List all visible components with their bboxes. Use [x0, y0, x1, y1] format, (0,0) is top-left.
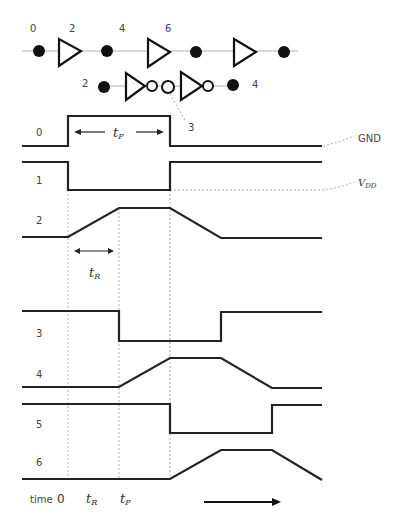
node-dot-0 [33, 45, 45, 57]
tr-annotation: tR [74, 248, 114, 281]
signal-label-6: 6 [36, 457, 42, 468]
tp-label: tP [113, 125, 124, 141]
waveform-0 [22, 116, 322, 146]
time-tp-label: tP [120, 491, 131, 507]
node-dot-4-bottom [227, 79, 239, 91]
top-node-label-6: 6 [165, 23, 171, 34]
signal-label-2: 2 [36, 215, 42, 226]
rail-callouts: GND VDD [322, 133, 381, 190]
waveform-2 [22, 208, 322, 238]
time-tr-label: tR [86, 491, 97, 507]
signal-label-5: 5 [36, 419, 42, 430]
waveform-5 [22, 404, 322, 433]
waveform-1 [22, 162, 322, 190]
top-node-label-4: 4 [119, 23, 125, 34]
gnd-label: GND [358, 133, 381, 144]
vdd-label: VDD [358, 177, 377, 190]
callout-label-3: 3 [188, 122, 194, 133]
arrowhead-right-icon [108, 248, 114, 254]
top-buffer-chain: 0 2 4 6 [22, 23, 298, 67]
arrowhead-left-icon [74, 129, 81, 135]
tr-label: tR [89, 265, 100, 281]
node-dot-2 [98, 81, 110, 93]
time-guides [68, 190, 322, 480]
waveform-6 [22, 450, 322, 480]
bottom-node-label-2: 2 [82, 78, 88, 89]
waveform-4 [22, 358, 322, 388]
buffer-gate-icon [234, 39, 256, 66]
top-node-label-2: 2 [69, 23, 75, 34]
time-zero-label: 0 [57, 492, 65, 506]
inverter-gate-icon [126, 73, 145, 100]
vdd-leader [322, 182, 354, 190]
signal-label-3: 3 [36, 328, 42, 339]
gnd-leader [323, 136, 354, 146]
inverter-gate-icon [181, 72, 202, 100]
signal-label-1: 1 [36, 175, 42, 186]
time-axis: time 0 tR tP [30, 491, 281, 507]
inverter-bubble-icon [203, 81, 213, 91]
signal-label-4: 4 [36, 369, 42, 380]
time-arrowhead-icon [272, 498, 281, 506]
buffer-gate-icon [148, 39, 170, 67]
bottom-node-label-4: 4 [252, 79, 258, 90]
arrowhead-right-icon [157, 129, 164, 135]
tp-annotation: tP [74, 125, 164, 141]
node-dot-end [278, 46, 290, 58]
time-axis-label: time [30, 494, 53, 505]
waveform-3 [22, 311, 322, 341]
buffer-gate-icon [59, 39, 81, 66]
signal-label-0: 0 [36, 127, 42, 138]
node-dot-4 [101, 45, 113, 57]
timing-diagram: 0 2 4 6 2 4 3 0 1 2 3 4 5 6 [0, 0, 397, 526]
node-dot-6 [190, 46, 202, 58]
node-3-open-circle [162, 81, 174, 93]
inverter-bubble-icon [147, 81, 157, 91]
top-node-label-0: 0 [30, 23, 36, 34]
arrowhead-left-icon [74, 248, 80, 254]
